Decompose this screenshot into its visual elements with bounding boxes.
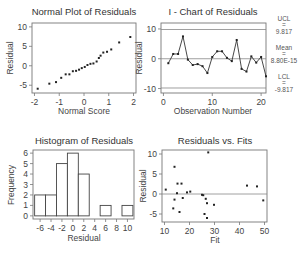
data-point: [245, 71, 247, 73]
data-point: [172, 207, 174, 209]
residuals-vs-fits-x-axis: 1020304050: [160, 222, 270, 236]
data-point: [231, 60, 233, 62]
data-point: [172, 53, 174, 55]
y-tick-label: 4: [23, 169, 28, 179]
histogram-ylabel: Frequency: [6, 164, 16, 205]
y-tick-label: 0: [151, 54, 156, 64]
data-point: [89, 63, 91, 65]
data-point: [165, 189, 167, 191]
data-point: [75, 70, 77, 72]
x-tick-label: 20: [256, 97, 266, 107]
i-chart-y-axis: -10010: [144, 24, 161, 94]
i-chart-title: I - Chart of Residuals: [168, 6, 257, 17]
y-tick-label: 1: [23, 200, 28, 210]
data-point: [206, 72, 208, 74]
ucl-eq: =: [282, 21, 286, 28]
data-point: [167, 62, 169, 64]
data-point: [226, 57, 228, 59]
i-chart-frame: [161, 23, 266, 93]
data-point: [260, 56, 262, 58]
i-chart-panel: I - Chart of Residuals -10010 01020 Obse…: [134, 6, 298, 116]
data-point: [246, 185, 248, 187]
ucl-value: 9.817: [276, 28, 293, 35]
mean-value: 8.80E-15: [271, 57, 298, 64]
residuals-vs-fits-xlabel: Fit: [210, 235, 220, 245]
x-tick-label: -2: [58, 223, 66, 233]
residuals-vs-fits-y-axis: -50510: [148, 149, 162, 219]
x-tick-label: 0: [161, 97, 166, 107]
data-point: [250, 55, 252, 57]
data-point: [181, 183, 183, 185]
data-point: [86, 64, 88, 66]
i-chart-x-axis: 01020: [161, 93, 266, 107]
data-point: [92, 62, 94, 64]
y-tick-label: 5: [23, 159, 28, 169]
histogram-bar: [46, 195, 57, 216]
data-point: [202, 65, 204, 67]
data-point: [179, 211, 181, 213]
data-point: [84, 66, 86, 68]
x-tick-label: 10: [160, 226, 170, 236]
histogram-bar: [78, 174, 89, 216]
normal-plot-points: [37, 36, 132, 90]
x-tick-label: 6: [103, 223, 108, 233]
normal-plot-frame: [32, 23, 136, 93]
y-tick-label: 6: [23, 148, 28, 158]
x-tick-label: -4: [47, 223, 55, 233]
data-point: [213, 204, 215, 206]
i-chart-ylabel: Residual: [134, 41, 144, 74]
data-point: [197, 63, 199, 65]
data-point: [202, 194, 204, 196]
x-tick-label: 40: [235, 226, 245, 236]
x-tick-label: 2: [131, 97, 136, 107]
histogram-panel: Histogram of Residuals 0123456 -6-4-2024…: [6, 135, 134, 243]
histogram-bar: [35, 195, 46, 216]
data-point: [118, 41, 120, 43]
y-tick-label: 10: [147, 24, 157, 34]
y-tick-label: 0: [22, 61, 27, 71]
y-tick-label: 0: [23, 211, 28, 221]
data-point: [182, 35, 184, 37]
data-point: [37, 88, 39, 90]
residuals-vs-fits-frame: [162, 150, 267, 222]
data-point: [102, 52, 104, 54]
histogram-bar: [122, 205, 133, 215]
data-point: [72, 70, 74, 72]
i-chart-xlabel: Observation Number: [174, 106, 253, 116]
normal-plot-x-axis: -2-1012: [31, 93, 136, 107]
data-point: [189, 191, 191, 193]
data-point: [182, 197, 184, 199]
data-point: [174, 199, 176, 201]
x-tick-label: 10: [123, 223, 133, 233]
lcl-eq: =: [282, 79, 286, 86]
data-point: [78, 69, 80, 71]
data-point: [206, 217, 208, 219]
residuals-vs-fits-panel: Residuals vs. Fits -50510 1020304050 Fit…: [138, 135, 269, 245]
normal-plot-title: Normal Plot of Residuals: [32, 6, 137, 17]
data-point: [129, 36, 131, 38]
y-tick-label: -10: [144, 84, 157, 94]
data-point: [216, 50, 218, 52]
data-point: [177, 183, 179, 185]
data-point: [65, 73, 67, 75]
x-tick-label: 8: [114, 223, 119, 233]
histogram-title: Histogram of Residuals: [35, 135, 133, 146]
normal-plot-xlabel: Normal Score: [58, 106, 110, 116]
residuals-vs-fits-title: Residuals vs. Fits: [178, 135, 253, 146]
histogram-bar: [67, 153, 78, 216]
data-point: [98, 57, 100, 59]
data-point: [100, 55, 102, 57]
data-point: [207, 151, 209, 153]
y-tick-label: 5: [22, 41, 27, 51]
y-tick-label: 3: [23, 180, 28, 190]
x-tick-label: 50: [260, 226, 270, 236]
data-point: [68, 73, 70, 75]
data-point: [236, 39, 238, 41]
data-point: [205, 198, 207, 200]
data-point: [177, 53, 179, 55]
lcl-value: -9.817: [275, 86, 294, 93]
x-tick-label: 0: [70, 223, 75, 233]
data-point: [60, 77, 62, 79]
x-tick-label: -6: [36, 223, 44, 233]
x-tick-label: 2: [81, 223, 86, 233]
